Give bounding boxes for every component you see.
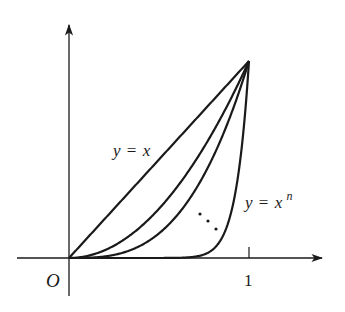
- label-y-equals-x-n: y = x n: [243, 189, 292, 212]
- x-tick-label-1: 1: [244, 271, 253, 290]
- origin-label: O: [46, 270, 60, 291]
- ellipsis-dot: [198, 212, 201, 215]
- curve-y-x: [69, 61, 249, 258]
- label-y-equals-x: y = x: [111, 141, 151, 160]
- ellipsis-dot: [214, 227, 217, 230]
- power-functions-figure: O 1 y = x y = x n: [0, 0, 345, 312]
- curves-group: [69, 61, 249, 258]
- ellipsis-dots: [198, 212, 217, 230]
- ellipsis-dot: [206, 219, 209, 222]
